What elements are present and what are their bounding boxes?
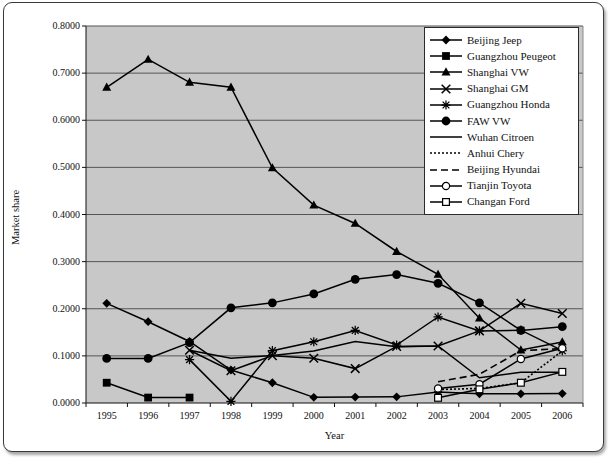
legend-key-icon — [429, 65, 463, 79]
legend-key-icon — [429, 82, 463, 96]
legend-item-beijing-jeep[interactable]: Beijing Jeep — [429, 32, 573, 48]
chart-legend: Beijing JeepGuangzhou PeugeotShanghai VW… — [424, 27, 579, 215]
legend-label: Guangzhou Peugeot — [463, 50, 556, 63]
legend-label: Anhui Chery — [463, 147, 524, 160]
legend-label: Guangzhou Honda — [463, 98, 550, 111]
legend-item-guangzhou-peugeot[interactable]: Guangzhou Peugeot — [429, 48, 573, 64]
legend-key-icon — [429, 114, 463, 128]
legend-item-beijing-hyundai[interactable]: Beijing Hyundai — [429, 162, 573, 178]
legend-key-icon — [429, 163, 463, 177]
x-tick-label: 2006 — [538, 411, 586, 421]
legend-label: Shanghai VW — [463, 66, 529, 79]
legend-item-tianjin-toyota[interactable]: Tianjin Toyota — [429, 178, 573, 194]
legend-key-icon — [429, 33, 463, 47]
legend-key-icon — [429, 179, 463, 193]
legend-key-icon — [429, 146, 463, 160]
legend-label: Shanghai GM — [463, 82, 528, 95]
legend-item-faw-vw[interactable]: FAW VW — [429, 113, 573, 129]
legend-label: Changan Ford — [463, 195, 530, 208]
x-axis-label: Year — [86, 430, 583, 441]
legend-item-anhui-chery[interactable]: Anhui Chery — [429, 145, 573, 161]
legend-key-icon — [429, 195, 463, 209]
legend-key-icon — [429, 130, 463, 144]
legend-label: Beijing Hyundai — [463, 163, 540, 176]
y-axis-label: Market share — [10, 178, 21, 258]
legend-label: FAW VW — [463, 115, 510, 128]
legend-item-shanghai-vw[interactable]: Shanghai VW — [429, 64, 573, 80]
legend-item-changan-ford[interactable]: Changan Ford — [429, 194, 573, 210]
legend-key-icon — [429, 98, 463, 112]
legend-label: Beijing Jeep — [463, 34, 522, 47]
legend-item-wuhan-citroen[interactable]: Wuhan Citroen — [429, 129, 573, 145]
legend-item-guangzhou-honda[interactable]: Guangzhou Honda — [429, 97, 573, 113]
legend-label: Wuhan Citroen — [463, 131, 534, 144]
legend-label: Tianjin Toyota — [463, 179, 531, 192]
legend-key-icon — [429, 49, 463, 63]
legend-item-shanghai-gm[interactable]: Shanghai GM — [429, 81, 573, 97]
